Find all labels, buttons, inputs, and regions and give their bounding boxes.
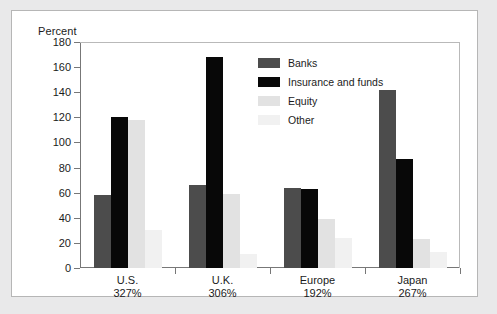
category-percent: 267% [365, 287, 460, 300]
legend-item: Equity [258, 93, 408, 108]
y-tick-label: 120 [53, 111, 71, 123]
y-tick-label: 80 [59, 162, 71, 174]
y-tick-label: 0 [65, 262, 71, 274]
category-percent: 327% [80, 287, 175, 300]
legend-item: Insurance and funds [258, 74, 408, 89]
legend-label: Equity [288, 95, 317, 107]
bar [430, 252, 447, 268]
x-axis-category-label: U.S.327% [80, 274, 175, 300]
legend-swatch-banks [258, 58, 280, 68]
bar-group [80, 42, 175, 268]
y-tick-label: 140 [53, 86, 71, 98]
y-tick-label: 20 [59, 237, 71, 249]
x-tick-mark [460, 268, 461, 274]
bar-group [175, 42, 270, 268]
x-axis-category-label: U.K.306% [175, 274, 270, 300]
bar [189, 185, 206, 268]
x-axis-category-label: Japan267% [365, 274, 460, 300]
category-percent: 192% [270, 287, 365, 300]
bar [318, 219, 335, 268]
bar [111, 117, 128, 268]
legend-item: Other [258, 112, 408, 127]
legend-label: Other [288, 114, 314, 126]
bar [223, 194, 240, 268]
chart-legend: BanksInsurance and fundsEquityOther [258, 55, 408, 131]
bar [145, 230, 162, 268]
y-tick-mark [74, 268, 80, 269]
legend-label: Insurance and funds [288, 76, 383, 88]
category-name: U.K. [212, 274, 233, 286]
legend-label: Banks [288, 57, 317, 69]
chart-figure: Percent 020406080100120140160180 U.S.327… [11, 10, 478, 297]
y-tick-label: 160 [53, 61, 71, 73]
y-tick-label: 40 [59, 212, 71, 224]
x-axis-category-label: Europe192% [270, 274, 365, 300]
y-tick-label: 180 [53, 36, 71, 48]
bar [301, 189, 318, 268]
y-tick-label: 100 [53, 136, 71, 148]
x-axis-labels: U.S.327%U.K.306%Europe192%Japan267% [80, 274, 460, 304]
bar [94, 195, 111, 268]
bar [206, 57, 223, 268]
bar [128, 120, 145, 268]
legend-swatch-insurance [258, 77, 280, 87]
legend-swatch-other [258, 115, 280, 125]
legend-swatch-equity [258, 96, 280, 106]
category-name: Europe [300, 274, 335, 286]
bar [240, 254, 257, 268]
category-name: U.S. [117, 274, 138, 286]
bar [284, 188, 301, 268]
bar [413, 239, 430, 268]
bar [396, 159, 413, 268]
category-percent: 306% [175, 287, 270, 300]
legend-item: Banks [258, 55, 408, 70]
y-tick-label: 60 [59, 187, 71, 199]
category-name: Japan [398, 274, 428, 286]
bar [335, 238, 352, 268]
